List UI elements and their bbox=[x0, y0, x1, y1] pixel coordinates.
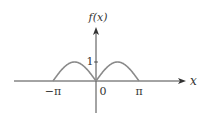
x-tick-label: π bbox=[135, 85, 142, 98]
x-tick-label: −π bbox=[45, 85, 61, 98]
y-tick-label: 1 bbox=[87, 55, 94, 68]
x-axis-label: x bbox=[190, 74, 197, 88]
x-tick-label: 0 bbox=[100, 85, 107, 98]
y-axis-label: f(x) bbox=[88, 11, 108, 24]
function-plot: f(x) x −π0π1 bbox=[0, 0, 205, 119]
